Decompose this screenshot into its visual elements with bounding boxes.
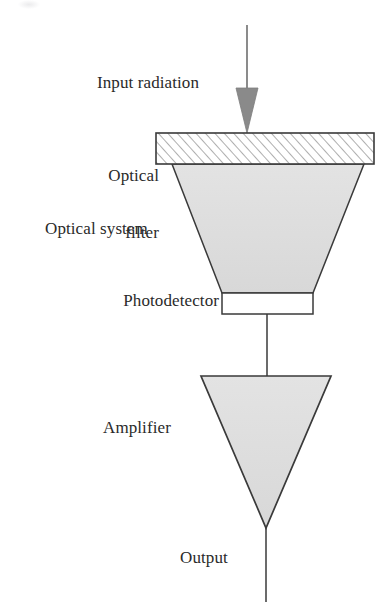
- label-output: Output: [180, 548, 228, 567]
- label-optical-system: Optical system: [45, 219, 148, 238]
- label-optical-filter: Optical filter: [108, 128, 159, 280]
- optical-filter-shape: [156, 133, 374, 164]
- photodetector-shape: [222, 293, 313, 314]
- label-photodetector: Photodetector: [123, 291, 219, 310]
- optical-filter-body: [156, 133, 374, 164]
- input-radiation-arrow-icon: [236, 25, 258, 133]
- optical-system-shape: [172, 164, 364, 293]
- amplifier-shape: [201, 376, 331, 528]
- label-amplifier: Amplifier: [103, 418, 171, 437]
- block-diagram: Input radiation Optical filter Optical s…: [0, 0, 392, 613]
- arrow-head: [236, 88, 258, 133]
- label-input-radiation: Input radiation: [97, 73, 199, 92]
- label-optical-filter-line1: Optical: [108, 166, 159, 185]
